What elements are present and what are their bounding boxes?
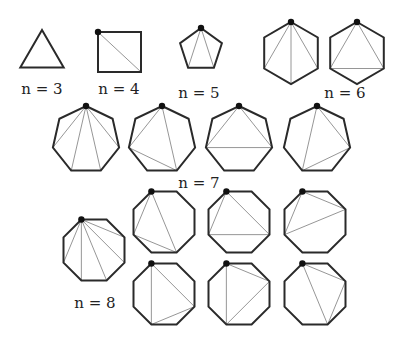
polygon-n8-12 (285, 188, 346, 252)
diagonal (188, 28, 201, 68)
root-vertex-marker (223, 188, 229, 194)
polygon-outline (206, 106, 272, 171)
label-n6: n = 6 (324, 84, 365, 102)
diagonal (129, 148, 177, 171)
diagonal (162, 106, 177, 171)
diagonal (209, 192, 227, 235)
polygon-n4-1 (95, 29, 141, 72)
polygon-n7-5 (53, 103, 119, 171)
diagonal (302, 192, 345, 210)
polygon-outline (284, 106, 350, 171)
root-vertex-marker (198, 25, 204, 31)
polygon-n8-15 (285, 260, 346, 324)
root-vertex-marker (223, 260, 229, 266)
diagonal (151, 264, 194, 307)
root-vertex-marker (148, 188, 154, 194)
label-n5: n = 5 (178, 84, 219, 102)
diagonal (328, 281, 346, 324)
diagonal (64, 220, 82, 263)
diagonal (81, 220, 124, 263)
diagonal (98, 32, 141, 72)
polygon-n8-14 (209, 260, 270, 324)
diagonal (226, 281, 269, 324)
polygon-n7-7 (206, 103, 272, 171)
polygon-outline (53, 106, 119, 171)
diagonal (302, 106, 317, 171)
polygon-n5-2 (180, 25, 222, 68)
root-vertex-marker (159, 103, 165, 109)
diagonal (226, 264, 269, 282)
label-n4: n = 4 (98, 80, 139, 98)
label-n7: n = 7 (178, 174, 219, 192)
label-n8: n = 8 (74, 294, 115, 312)
root-vertex-marker (78, 216, 84, 222)
root-vertex-marker (83, 103, 89, 109)
diagonal (201, 28, 214, 68)
polygon-outline (20, 30, 63, 68)
diagonal (134, 192, 152, 235)
polygon-n8-13 (134, 260, 195, 324)
polygon-n6-3 (264, 19, 318, 84)
diagonal (226, 192, 269, 235)
polygon-outline (180, 28, 222, 68)
diagonal (151, 307, 194, 325)
diagonal (302, 148, 350, 171)
polygon-outline (209, 264, 270, 325)
polygon-n8-11 (209, 188, 270, 252)
triangulation-diagram (0, 0, 406, 340)
polygon-outline (209, 192, 270, 253)
polygon-n8-9 (64, 216, 125, 280)
root-vertex-marker (354, 19, 360, 25)
polygon-n3-0 (20, 30, 63, 68)
root-vertex-marker (299, 260, 305, 266)
polygon-n7-8 (284, 103, 350, 171)
polygon-n8-10 (134, 188, 195, 252)
root-vertex-marker (148, 260, 154, 266)
polygon-outline (134, 264, 195, 325)
root-vertex-marker (236, 103, 242, 109)
polygon-n7-6 (129, 103, 195, 171)
polygon-outline (330, 22, 384, 84)
root-vertex-marker (288, 19, 294, 25)
root-vertex-marker (314, 103, 320, 109)
polygon-outline (129, 106, 195, 171)
root-vertex-marker (299, 188, 305, 194)
label-n3: n = 3 (21, 80, 62, 98)
polygon-n6-4 (330, 19, 384, 84)
root-vertex-marker (95, 29, 101, 35)
